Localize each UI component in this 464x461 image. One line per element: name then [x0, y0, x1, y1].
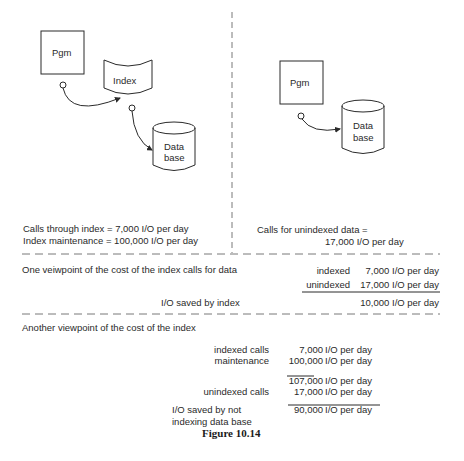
database-label-left-1: Data: [164, 141, 184, 152]
viewpoint-one-heading: One veiwpoint of the cost of the index c…: [22, 264, 237, 275]
database-label-right-2: base: [353, 132, 374, 143]
index-maintenance: Index maintenance = 100,000 I/O per day: [23, 235, 198, 246]
vp2-result-number: 90,000: [280, 404, 323, 415]
calls-unindexed-1: Calls for unindexed data =: [257, 224, 368, 235]
vp1-indexed-value: 7,000 I/O per day: [350, 265, 439, 276]
vp2-row-number: 107,000: [280, 375, 323, 386]
vp2-row-number: 100,000: [280, 355, 323, 366]
database-label-right-1: Data: [353, 120, 373, 131]
database-label-left-2: base: [164, 152, 185, 163]
vp2-row-label: unindexed calls: [180, 386, 269, 397]
vp2-row-number: 17,000: [280, 386, 323, 397]
vp2-row-unit: I/O per day: [325, 375, 372, 386]
vp1-result-value: 10,000 I/O per day: [340, 297, 439, 308]
vp2-result-label-2: indexing data base: [172, 416, 252, 427]
vp2-row-unit: I/O per day: [325, 355, 372, 366]
arrow-index-to-database: [132, 111, 152, 150]
vp2-row-label: indexed calls: [180, 344, 269, 355]
vp2-row-unit: I/O per day: [325, 386, 372, 397]
figure-caption: Figure 10.14: [202, 428, 260, 439]
calls-through-index: Calls through index = 7,000 I/O per day: [23, 223, 189, 234]
index-label: Index: [113, 75, 136, 86]
vp2-row-label: maintenance: [180, 355, 269, 366]
pgm-label-right: Pgm: [290, 77, 310, 88]
calls-unindexed-2: 17,000 I/O per day: [325, 236, 404, 247]
vp1-indexed-label: indexed: [300, 265, 350, 276]
vp2-row-unit: I/O per day: [325, 344, 372, 355]
vp2-result-unit: I/O per day: [325, 404, 372, 415]
arrow-pgm-to-database: [302, 119, 340, 130]
vp1-unindexed-label: unindexed: [300, 279, 350, 290]
vp2-result-label-1: I/O saved by not: [172, 404, 241, 415]
vp2-row-number: 7,000: [280, 344, 323, 355]
pgm-label-left: Pgm: [52, 47, 72, 58]
vp1-unindexed-value: 17,000 I/O per day: [350, 279, 439, 290]
viewpoint-two-heading: Another viewpoint of the cost of the ind…: [22, 322, 196, 333]
vp1-result-label: I/O saved by index: [161, 297, 240, 308]
